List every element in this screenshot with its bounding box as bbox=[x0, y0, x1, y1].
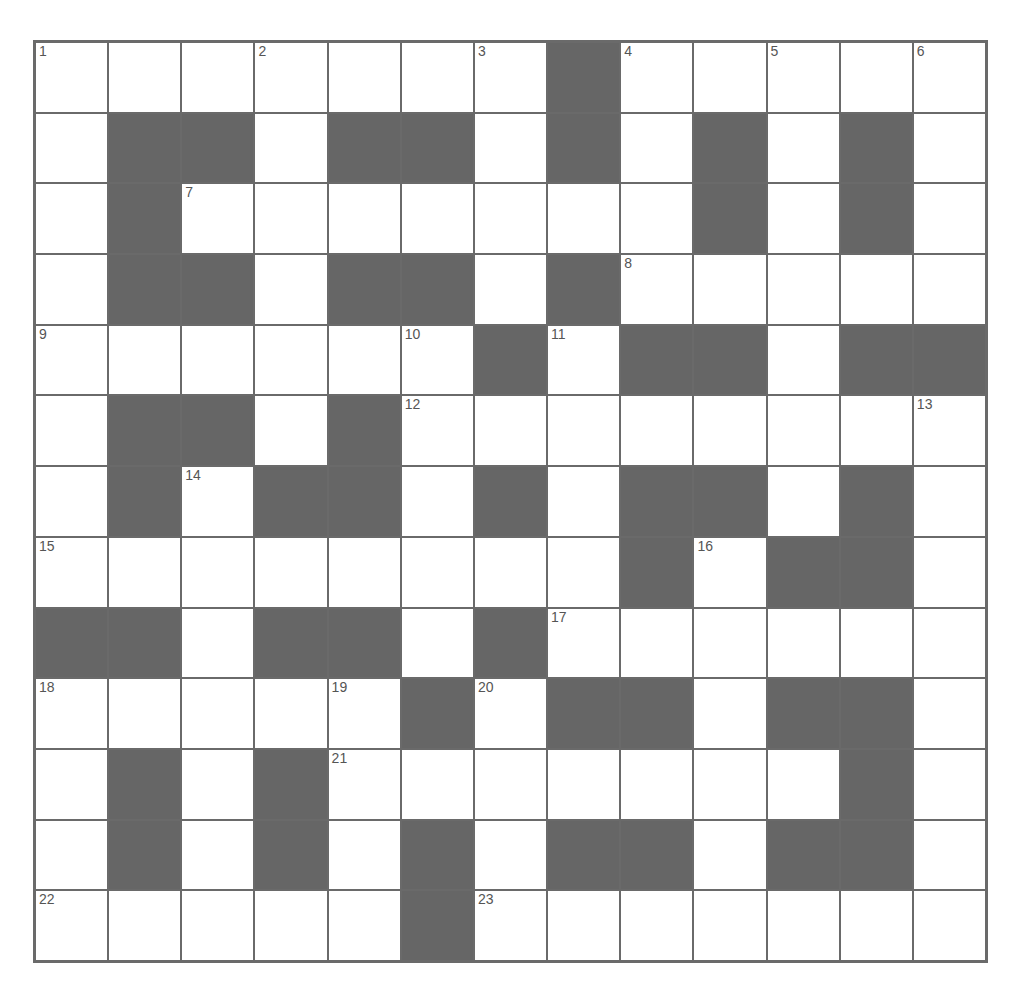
answer-cell[interactable] bbox=[255, 326, 326, 395]
answer-cell[interactable] bbox=[402, 43, 473, 112]
answer-cell[interactable] bbox=[694, 609, 765, 678]
answer-cell[interactable] bbox=[548, 538, 619, 607]
answer-cell[interactable] bbox=[182, 891, 253, 960]
answer-cell[interactable]: 11 bbox=[548, 326, 619, 395]
answer-cell[interactable]: 22 bbox=[36, 891, 107, 960]
answer-cell[interactable]: 18 bbox=[36, 679, 107, 748]
answer-cell[interactable] bbox=[914, 467, 985, 536]
answer-cell[interactable] bbox=[475, 821, 546, 890]
answer-cell[interactable] bbox=[475, 114, 546, 183]
answer-cell[interactable] bbox=[255, 396, 326, 465]
answer-cell[interactable] bbox=[109, 679, 180, 748]
answer-cell[interactable] bbox=[914, 750, 985, 819]
answer-cell[interactable] bbox=[841, 609, 912, 678]
answer-cell[interactable]: 7 bbox=[182, 184, 253, 253]
answer-cell[interactable] bbox=[329, 891, 400, 960]
answer-cell[interactable] bbox=[182, 609, 253, 678]
answer-cell[interactable] bbox=[475, 255, 546, 324]
answer-cell[interactable] bbox=[475, 538, 546, 607]
answer-cell[interactable] bbox=[402, 538, 473, 607]
answer-cell[interactable] bbox=[841, 255, 912, 324]
answer-cell[interactable] bbox=[914, 891, 985, 960]
answer-cell[interactable] bbox=[841, 43, 912, 112]
answer-cell[interactable] bbox=[329, 326, 400, 395]
answer-cell[interactable] bbox=[548, 467, 619, 536]
answer-cell[interactable] bbox=[255, 891, 326, 960]
answer-cell[interactable] bbox=[768, 114, 839, 183]
answer-cell[interactable] bbox=[36, 821, 107, 890]
answer-cell[interactable] bbox=[621, 184, 692, 253]
answer-cell[interactable]: 9 bbox=[36, 326, 107, 395]
answer-cell[interactable] bbox=[402, 609, 473, 678]
answer-cell[interactable] bbox=[36, 750, 107, 819]
answer-cell[interactable] bbox=[475, 750, 546, 819]
answer-cell[interactable] bbox=[36, 255, 107, 324]
answer-cell[interactable] bbox=[768, 396, 839, 465]
answer-cell[interactable]: 8 bbox=[621, 255, 692, 324]
answer-cell[interactable] bbox=[768, 184, 839, 253]
answer-cell[interactable]: 17 bbox=[548, 609, 619, 678]
answer-cell[interactable] bbox=[621, 114, 692, 183]
answer-cell[interactable] bbox=[841, 891, 912, 960]
answer-cell[interactable] bbox=[694, 43, 765, 112]
answer-cell[interactable] bbox=[109, 538, 180, 607]
answer-cell[interactable] bbox=[841, 396, 912, 465]
answer-cell[interactable] bbox=[621, 750, 692, 819]
answer-cell[interactable] bbox=[255, 114, 326, 183]
answer-cell[interactable] bbox=[475, 396, 546, 465]
answer-cell[interactable] bbox=[694, 891, 765, 960]
answer-cell[interactable] bbox=[694, 396, 765, 465]
answer-cell[interactable] bbox=[402, 184, 473, 253]
answer-cell[interactable] bbox=[182, 750, 253, 819]
answer-cell[interactable] bbox=[768, 326, 839, 395]
answer-cell[interactable]: 16 bbox=[694, 538, 765, 607]
answer-cell[interactable] bbox=[548, 396, 619, 465]
answer-cell[interactable] bbox=[914, 679, 985, 748]
answer-cell[interactable]: 5 bbox=[768, 43, 839, 112]
answer-cell[interactable] bbox=[182, 679, 253, 748]
answer-cell[interactable]: 1 bbox=[36, 43, 107, 112]
answer-cell[interactable]: 21 bbox=[329, 750, 400, 819]
answer-cell[interactable] bbox=[182, 43, 253, 112]
answer-cell[interactable] bbox=[768, 891, 839, 960]
answer-cell[interactable]: 23 bbox=[475, 891, 546, 960]
answer-cell[interactable] bbox=[694, 255, 765, 324]
answer-cell[interactable] bbox=[255, 679, 326, 748]
answer-cell[interactable] bbox=[36, 114, 107, 183]
answer-cell[interactable] bbox=[694, 679, 765, 748]
answer-cell[interactable] bbox=[548, 891, 619, 960]
answer-cell[interactable] bbox=[255, 184, 326, 253]
answer-cell[interactable] bbox=[914, 538, 985, 607]
answer-cell[interactable] bbox=[914, 255, 985, 324]
answer-cell[interactable] bbox=[694, 750, 765, 819]
answer-cell[interactable] bbox=[109, 326, 180, 395]
answer-cell[interactable]: 10 bbox=[402, 326, 473, 395]
answer-cell[interactable] bbox=[548, 750, 619, 819]
answer-cell[interactable] bbox=[329, 821, 400, 890]
answer-cell[interactable] bbox=[768, 750, 839, 819]
answer-cell[interactable] bbox=[329, 184, 400, 253]
answer-cell[interactable] bbox=[768, 467, 839, 536]
answer-cell[interactable] bbox=[36, 184, 107, 253]
answer-cell[interactable]: 6 bbox=[914, 43, 985, 112]
answer-cell[interactable] bbox=[621, 891, 692, 960]
answer-cell[interactable] bbox=[255, 255, 326, 324]
answer-cell[interactable]: 19 bbox=[329, 679, 400, 748]
answer-cell[interactable] bbox=[402, 750, 473, 819]
answer-cell[interactable] bbox=[621, 396, 692, 465]
answer-cell[interactable] bbox=[475, 184, 546, 253]
answer-cell[interactable]: 20 bbox=[475, 679, 546, 748]
answer-cell[interactable] bbox=[329, 43, 400, 112]
answer-cell[interactable]: 4 bbox=[621, 43, 692, 112]
answer-cell[interactable] bbox=[914, 114, 985, 183]
answer-cell[interactable] bbox=[914, 184, 985, 253]
answer-cell[interactable]: 14 bbox=[182, 467, 253, 536]
answer-cell[interactable] bbox=[402, 467, 473, 536]
answer-cell[interactable] bbox=[548, 184, 619, 253]
answer-cell[interactable] bbox=[182, 326, 253, 395]
answer-cell[interactable] bbox=[182, 538, 253, 607]
answer-cell[interactable]: 13 bbox=[914, 396, 985, 465]
answer-cell[interactable] bbox=[255, 538, 326, 607]
answer-cell[interactable] bbox=[36, 467, 107, 536]
answer-cell[interactable]: 12 bbox=[402, 396, 473, 465]
